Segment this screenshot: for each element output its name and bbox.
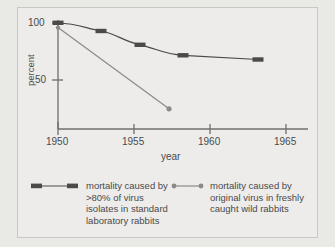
x-tick-label-1950: 1950 <box>46 136 68 147</box>
series-lab-rabbits-point <box>253 57 264 61</box>
series-wild-rabbits-point <box>166 106 171 111</box>
x-axis-title: year <box>161 151 180 162</box>
series-lab-rabbits-point <box>178 53 189 57</box>
series-lab-rabbits-point <box>96 29 107 33</box>
x-tick-label-1960: 1960 <box>198 136 220 147</box>
y-axis-title: percent <box>25 54 36 86</box>
series-lab-rabbits-point <box>135 43 146 47</box>
legend-label-wild-rabbits: mortality caused by original virus in fr… <box>210 180 315 215</box>
x-tick-label-1965: 1965 <box>274 136 296 147</box>
series-lab-rabbits-line <box>58 23 258 60</box>
legend-marker-lab-rabbits <box>31 184 78 189</box>
series-lab-rabbits-point <box>53 21 64 25</box>
series-wild-rabbits-line <box>58 28 169 109</box>
legend-label-lab-rabbits: mortality caused by >80% of virus isolat… <box>86 180 176 226</box>
y-tick-label-50: 50 <box>35 74 46 85</box>
legend-marker-wild-rabbits <box>172 184 204 189</box>
chart-frame: 100 50 percent 1950 1955 1960 1965 year … <box>17 7 318 238</box>
x-tick-label-1955: 1955 <box>122 136 144 147</box>
series-wild-rabbits-point <box>56 25 60 29</box>
y-tick-label-100: 100 <box>28 17 45 28</box>
